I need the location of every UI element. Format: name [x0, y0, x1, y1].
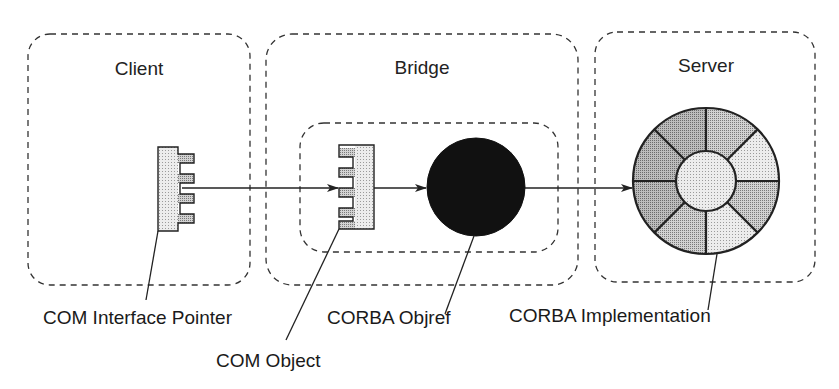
corba-implementation-icon	[633, 108, 779, 254]
bridge-container: Bridge	[266, 34, 578, 285]
client-title: Client	[115, 58, 164, 79]
corba-objref-icon	[427, 138, 525, 236]
bridge-title: Bridge	[395, 57, 450, 78]
label-com-object: COM Object	[216, 350, 321, 371]
server-title: Server	[678, 55, 735, 76]
leader-corba-objref	[445, 236, 474, 314]
label-corba-implementation: CORBA Implementation	[509, 305, 711, 326]
com-corba-bridge-diagram: Client Bridge Server	[0, 0, 839, 389]
com-object-icon	[339, 145, 374, 229]
label-corba-objref: CORBA Objref	[327, 307, 451, 328]
label-com-interface-pointer: COM Interface Pointer	[43, 307, 233, 328]
client-container: Client	[28, 34, 250, 285]
leader-com-interface-pointer	[146, 231, 158, 300]
com-interface-pointer-icon	[158, 147, 194, 231]
